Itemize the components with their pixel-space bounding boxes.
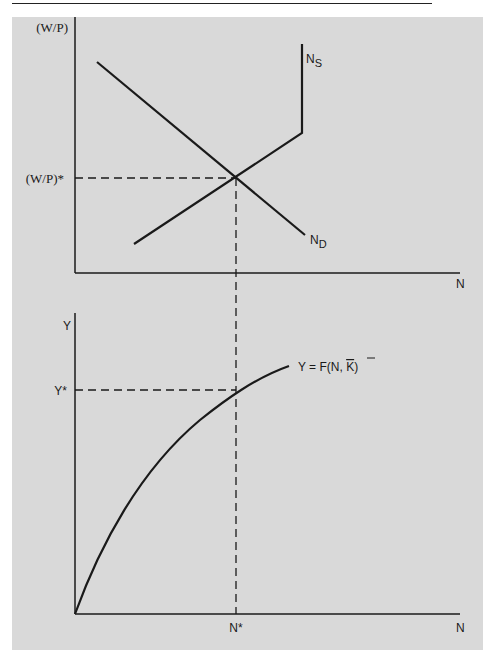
labor-demand-curve	[97, 62, 305, 235]
equilibrium-employment-label: N*	[229, 621, 243, 635]
equilibrium-output-label: Y*	[54, 384, 67, 398]
employment-axis-label-bottom: N	[456, 621, 465, 635]
equilibrium-wage-label: (W/P)*	[26, 171, 64, 186]
top-axes	[75, 17, 460, 273]
employment-axis-label-top: N	[456, 277, 465, 291]
output-axis-label: Y	[63, 319, 71, 333]
wage-axis-label: (W/P)	[36, 20, 68, 35]
labor-market-diagram: (W/P) N (W/P)* ND NS Y Y* N* N Y = F(N, …	[0, 0, 483, 650]
labor-demand-label: ND	[310, 233, 327, 250]
production-function-label: Y = F(N, K)	[298, 360, 358, 374]
labor-supply-label: NS	[306, 52, 322, 69]
labor-supply-curve	[134, 44, 302, 244]
production-function-curve	[75, 366, 289, 614]
